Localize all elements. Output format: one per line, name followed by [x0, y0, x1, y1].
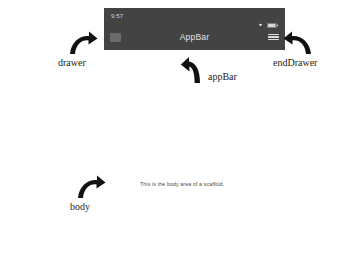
annotation-label-drawer: drawer [58, 58, 86, 68]
hamburger-menu-icon[interactable] [268, 33, 279, 42]
status-bar-indicators [257, 13, 278, 19]
hamburger-line [268, 34, 279, 35]
annotation-label-enddrawer: endDrawer [273, 58, 317, 68]
battery-icon [267, 14, 278, 19]
hamburger-line [268, 39, 279, 40]
scaffold-body-text: This is the body area of a scaffold. [140, 181, 224, 187]
menu-square-icon[interactable] [110, 33, 121, 42]
scaffold-appbar-region: 9:57 AppBar [104, 8, 285, 50]
curved-arrow-up-right-icon [76, 174, 106, 200]
curved-arrow-up-right-icon [68, 30, 98, 56]
wifi-icon [257, 13, 264, 19]
curved-arrow-up-icon [180, 56, 204, 84]
appbar-title: AppBar [121, 33, 268, 42]
hamburger-line [268, 36, 279, 37]
curved-arrow-up-left-icon [283, 30, 313, 56]
diagram-canvas: 9:57 AppBar [0, 0, 340, 270]
annotation-label-appbar: appBar [208, 72, 237, 82]
annotation-label-body: body [70, 202, 90, 212]
appbar-toolbar: AppBar [104, 24, 285, 50]
status-bar: 9:57 [104, 8, 285, 24]
status-bar-time: 9:57 [111, 13, 123, 19]
